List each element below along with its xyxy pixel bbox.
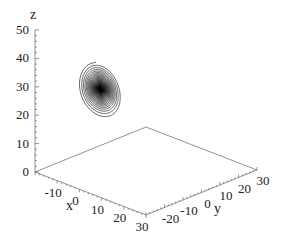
z-axis-label: z: [30, 7, 36, 22]
y-tick-label: -10: [180, 203, 197, 218]
z-tick-label: 20: [16, 107, 29, 122]
z-tick-label: 0: [23, 164, 30, 179]
z-tick-label: 50: [16, 22, 29, 37]
y-tick-label: -20: [162, 211, 179, 226]
lorenz-attractor-plot: 01020304050-100102030-20-100102030 z x y: [0, 0, 290, 241]
z-tick-label: 30: [16, 79, 29, 94]
x-tick-label: 10: [91, 202, 104, 217]
z-tick-label: 40: [16, 50, 29, 65]
x-tick-label: 30: [136, 219, 149, 234]
x-tick-label: 0: [72, 193, 79, 208]
y-tick-label: 20: [238, 181, 251, 196]
x-tick-label: 20: [113, 210, 126, 225]
y-tick-label: 30: [257, 173, 270, 188]
x-tick-label: -10: [45, 185, 62, 200]
trajectory-line: [80, 63, 121, 117]
y-tick-label: 0: [204, 196, 211, 211]
x-axis-label: x: [66, 198, 73, 213]
y-axis-label: y: [214, 201, 221, 216]
y-tick-label: 10: [220, 188, 233, 203]
z-tick-label: 10: [16, 136, 29, 151]
